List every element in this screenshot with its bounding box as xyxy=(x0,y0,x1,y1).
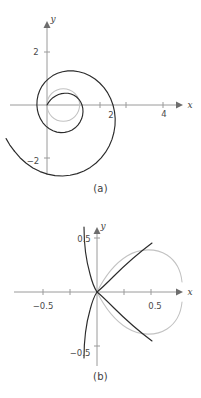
x-tick-label-neg05-b: −0.5 xyxy=(33,301,54,311)
panel-b: −0.5 0.5 0.5 −0.5 x y xyxy=(0,198,201,398)
y-axis-arrowhead-a xyxy=(44,21,51,28)
curve-dark-spiral-a-tail xyxy=(6,139,14,152)
caption-a: (a) xyxy=(0,183,201,194)
plot-b-svg: −0.5 0.5 0.5 −0.5 x y xyxy=(0,198,201,398)
x-axis-label-a: x xyxy=(187,100,192,110)
x-axis-arrowhead-a xyxy=(176,102,183,109)
x-tick-label-2-a: 2 xyxy=(108,110,113,120)
y-axis-label-b: y xyxy=(99,221,106,231)
curve-light-upper-b xyxy=(97,250,182,292)
curve-light-lower-b xyxy=(97,292,182,334)
y-tick-label-05-b: 0.5 xyxy=(77,234,91,244)
caption-b: (b) xyxy=(0,371,201,382)
x-tick-label-4-a: 4 xyxy=(161,109,166,119)
y-axis-arrowhead-b xyxy=(94,227,101,234)
figure-container: 2 4 2 −2 x y (a) xyxy=(0,0,201,398)
panel-a: 2 4 2 −2 x y xyxy=(0,0,201,200)
y-axis-label-a: y xyxy=(49,14,56,24)
plot-a-svg: 2 4 2 −2 x y xyxy=(0,0,201,200)
x-tick-label-05-b: 0.5 xyxy=(148,301,162,311)
y-tick-label-neg2-a: −2 xyxy=(27,156,40,166)
x-axis-label-b: x xyxy=(187,287,192,297)
y-tick-label-2-a: 2 xyxy=(33,47,38,57)
x-axis-arrowhead-b xyxy=(176,289,183,296)
y-tick-label-neg05-b: −0.5 xyxy=(70,348,91,358)
